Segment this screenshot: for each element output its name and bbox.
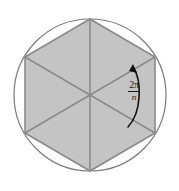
geometry-canvas (0, 0, 179, 191)
geometry-figure: 2π n (0, 0, 179, 191)
fraction-2pi-over-n: 2π n (128, 80, 140, 102)
central-angle-label: 2π n (120, 80, 148, 103)
fraction-numerator: 2π (128, 80, 140, 91)
fraction-denominator: n (128, 93, 140, 102)
